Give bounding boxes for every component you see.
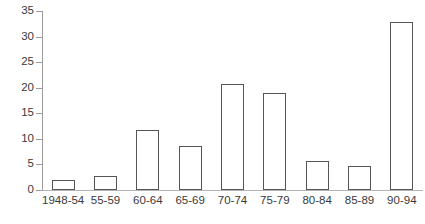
y-axis-tick-label: 30 — [0, 31, 34, 43]
x-axis-tick-label: 90-94 — [381, 195, 423, 207]
x-axis-labels: 1948-5455-5960-6465-6970-7475-7980-8485-… — [42, 195, 423, 215]
bar — [94, 176, 117, 190]
y-axis-tick-label: 35 — [0, 5, 34, 17]
bar-chart: 05101520253035 1948-5455-5960-6465-6970-… — [0, 0, 425, 224]
x-axis-tick-label: 60-64 — [127, 195, 169, 207]
bar — [263, 93, 286, 190]
bar — [136, 130, 159, 190]
bar — [348, 166, 371, 190]
bar-group — [42, 11, 423, 190]
y-axis-tick-label: 15 — [0, 107, 34, 119]
bar — [52, 180, 75, 190]
bar — [179, 146, 202, 190]
y-axis-tick-label: 20 — [0, 82, 34, 94]
y-axis-tick-label: 5 — [0, 158, 34, 170]
x-axis-tick-label: 85-89 — [338, 195, 380, 207]
y-axis-tick-label: 0 — [0, 184, 34, 196]
x-axis-tick-label: 70-74 — [211, 195, 253, 207]
x-axis-tick-label: 55-59 — [84, 195, 126, 207]
bar — [390, 22, 413, 190]
x-axis-tick-label: 80-84 — [296, 195, 338, 207]
x-axis-line — [42, 190, 423, 191]
x-axis-tick-label: 1948-54 — [42, 195, 84, 207]
y-axis-tick — [36, 190, 42, 191]
x-axis-tick-label: 75-79 — [254, 195, 296, 207]
bar — [306, 161, 329, 190]
y-axis-tick-label: 10 — [0, 133, 34, 145]
y-axis-tick-label: 25 — [0, 56, 34, 68]
bar — [221, 84, 244, 190]
x-axis-tick-label: 65-69 — [169, 195, 211, 207]
